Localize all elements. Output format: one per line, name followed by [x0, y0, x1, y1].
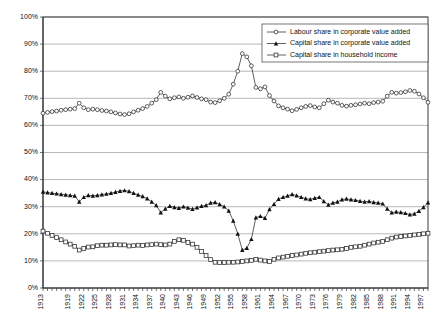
data-point [358, 102, 362, 106]
chart-svg: 0%10%20%30%40%50%60%70%80%90%100%1913191… [0, 0, 441, 320]
data-point [200, 250, 204, 254]
data-point [204, 254, 208, 258]
x-tick-label: 1943 [173, 294, 180, 310]
data-point [127, 244, 131, 248]
data-point [163, 207, 167, 211]
data-point [281, 255, 285, 259]
data-point [354, 245, 358, 249]
data-point [363, 101, 367, 105]
data-point [295, 253, 299, 257]
data-point [249, 237, 253, 241]
x-tick-label: 1991 [390, 294, 397, 310]
data-point [231, 218, 235, 222]
x-tick-label: 1925 [91, 294, 98, 310]
data-point [372, 101, 376, 105]
data-point [259, 258, 263, 262]
y-tick-label: 50% [24, 148, 38, 155]
data-point [317, 195, 321, 199]
data-point [50, 110, 54, 114]
data-point [136, 243, 140, 247]
data-point [390, 236, 394, 240]
data-point [412, 211, 416, 215]
data-point [177, 238, 181, 242]
data-point [290, 254, 294, 258]
data-point [191, 242, 195, 246]
data-point [274, 53, 278, 57]
x-tick-label: 1934 [132, 294, 139, 310]
data-point [150, 200, 154, 204]
data-point [331, 248, 335, 252]
data-point [100, 109, 104, 113]
data-point [136, 108, 140, 112]
data-point [231, 82, 235, 86]
data-point [390, 90, 394, 94]
data-point [186, 95, 190, 99]
data-point [195, 96, 199, 100]
data-point [358, 244, 362, 248]
data-point [240, 260, 244, 264]
x-tick-label: 1958 [241, 294, 248, 310]
legend-label: Capital share in corporate value added [290, 39, 410, 47]
data-point [426, 231, 430, 235]
data-point [308, 104, 312, 108]
y-tick-label: 0% [28, 284, 38, 291]
data-point [168, 97, 172, 101]
data-point [150, 101, 154, 105]
data-point [172, 239, 176, 243]
data-point [105, 243, 109, 247]
data-point [177, 95, 181, 99]
data-point [245, 246, 249, 250]
data-point [218, 261, 222, 265]
data-point [274, 30, 278, 34]
data-point [95, 244, 99, 248]
data-point [209, 258, 213, 262]
data-point [367, 242, 371, 246]
data-point [286, 107, 290, 111]
data-point [59, 238, 63, 242]
data-point [326, 249, 330, 253]
data-point [336, 248, 340, 252]
y-tick-label: 30% [24, 203, 38, 210]
data-point [46, 110, 50, 114]
data-point [168, 204, 172, 208]
data-point [322, 249, 326, 253]
data-point [209, 100, 213, 104]
data-point [222, 261, 226, 265]
data-point [114, 243, 118, 247]
data-point [276, 197, 280, 201]
legend: Labour share in corporate value addedCap… [262, 24, 428, 62]
data-point [268, 260, 272, 264]
x-tick-label: 1931 [119, 294, 126, 310]
y-tick-label: 90% [24, 40, 38, 47]
data-point [145, 243, 149, 247]
data-point [41, 189, 45, 193]
data-point [413, 89, 417, 93]
data-point [313, 250, 317, 254]
data-point [46, 231, 50, 235]
data-point [336, 101, 340, 105]
data-point [141, 107, 145, 111]
data-point [277, 104, 281, 108]
data-point [245, 55, 249, 59]
y-tick-label: 40% [24, 175, 38, 182]
data-point [376, 240, 380, 244]
data-point [123, 243, 127, 247]
data-point [118, 112, 122, 116]
data-point [213, 101, 217, 105]
data-point [141, 244, 145, 248]
data-point [86, 193, 90, 197]
data-point [200, 97, 204, 101]
data-point [372, 241, 376, 245]
data-point [394, 210, 398, 214]
x-tick-label: 1964 [268, 294, 275, 310]
data-point [272, 257, 276, 261]
data-point [349, 245, 353, 249]
data-point [295, 108, 299, 112]
data-point [168, 242, 172, 246]
data-point [254, 257, 258, 261]
data-point [249, 258, 253, 262]
y-tick-label: 60% [24, 121, 38, 128]
data-point [182, 96, 186, 100]
series-line [43, 190, 428, 250]
data-point [417, 92, 421, 96]
